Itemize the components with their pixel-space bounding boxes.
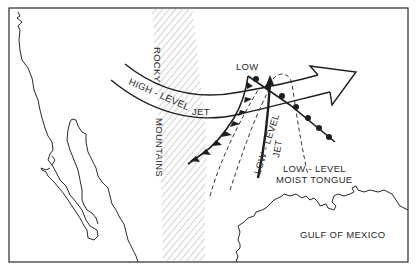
mountains-label: MOUNTAINS bbox=[154, 118, 165, 177]
low-label: LOW bbox=[236, 61, 259, 72]
moist-tongue-label-line1: LOW - LEVEL bbox=[283, 163, 346, 174]
map-frame bbox=[9, 8, 408, 262]
weather-diagram: ROCKY MOUNTAINS HIGH - LEVEL JET LOW LOW… bbox=[0, 0, 416, 269]
high-level-jet-label-suffix: JET bbox=[192, 106, 210, 117]
rocky-label: ROCKY bbox=[152, 47, 163, 83]
moist-tongue-label-line2: MOIST TONGUE bbox=[276, 174, 352, 185]
gulf-of-mexico-label: GULF OF MEXICO bbox=[300, 229, 385, 240]
